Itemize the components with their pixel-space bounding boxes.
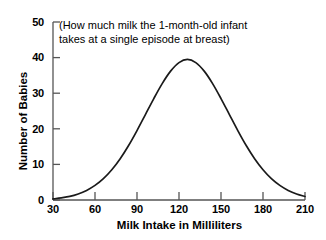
x-axis-title: Milk Intake in Milliliters [53,219,306,231]
x-axis-ticks [53,192,305,200]
y-axis-title: Number of Babies [17,51,29,191]
x-tick-label-150: 150 [206,203,236,215]
y-tick-label-50: 50 [22,16,44,28]
chart-annotation-line-1: (How much milk the 1-month-old infant [59,18,309,32]
x-tick-label-210: 210 [290,203,320,215]
y-axis-ticks [53,22,60,200]
x-tick-label-60: 60 [80,203,110,215]
x-tick-label-120: 120 [164,203,194,215]
chart-figure: 0 10 20 30 40 50 30 60 90 120 150 180 21… [0,0,326,240]
x-tick-label-180: 180 [248,203,278,215]
x-tick-label-90: 90 [122,203,152,215]
x-tick-label-30: 30 [38,203,68,215]
distribution-curve [53,59,305,199]
chart-annotation: (How much milk the 1-month-old infant ta… [59,18,309,46]
chart-annotation-line-2: takes at a single episode at breast) [59,32,309,46]
